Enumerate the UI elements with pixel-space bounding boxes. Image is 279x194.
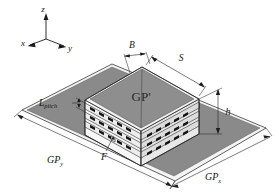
axis-y-arrowhead <box>58 44 66 49</box>
dim-s-ext-bottom <box>199 86 206 96</box>
axis-triad-group <box>28 13 67 49</box>
lpitch-subscript: pitch <box>43 102 57 109</box>
axis-z-label: z <box>40 4 45 14</box>
gpx-subscript: x <box>217 177 221 184</box>
dim-gpy-arrow-bottom <box>166 182 173 187</box>
dim-gpy-arrow-top <box>17 115 24 120</box>
dimension-b-label: B <box>129 40 135 50</box>
axis-z-arrowhead <box>44 13 49 20</box>
dim-h-arrow-top <box>216 89 220 95</box>
axis-x-label: x <box>20 38 25 48</box>
gpx-main: GP <box>205 171 218 182</box>
figure-canvas: z x y GP' B S h Lpitch F GPy GPx <box>0 0 279 194</box>
dimension-s-label: S <box>179 53 184 63</box>
gpy-subscript: y <box>59 160 63 167</box>
gpy-main: GP <box>47 154 60 165</box>
ground-y-label: GPy <box>47 154 63 167</box>
dimension-h-label: h <box>226 106 231 117</box>
dim-s-ext-top <box>146 55 153 65</box>
dim-s-arrow-top <box>151 56 158 62</box>
dim-s-arrow-bottom <box>199 82 206 88</box>
top-plate-label: GP' <box>132 89 151 104</box>
axis-y-label: y <box>67 43 72 53</box>
dim-gpx-ext-right <box>266 128 272 136</box>
ground-x-label: GPx <box>205 171 221 184</box>
axis-x-arrowhead <box>28 43 36 48</box>
feed-label: F <box>100 151 108 162</box>
dim-b-arrow-right <box>140 52 146 55</box>
antenna-geometry-svg: z x y GP' B S h Lpitch F GPy GPx <box>0 0 279 194</box>
